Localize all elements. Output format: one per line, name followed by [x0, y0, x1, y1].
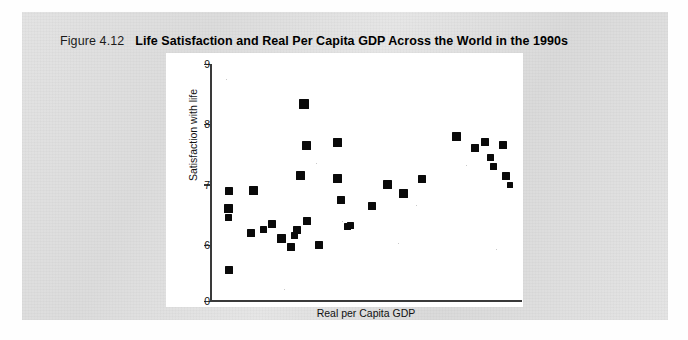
data-point [399, 189, 408, 198]
data-point [296, 171, 305, 180]
data-point [333, 174, 342, 183]
data-point [299, 99, 309, 109]
y-axis-line [210, 64, 212, 302]
data-point [502, 172, 510, 180]
data-point [268, 220, 276, 228]
figure-caption: Figure 4.12 Life Satisfaction and Real P… [60, 34, 568, 48]
figure-number: Figure 4.12 [60, 34, 124, 48]
data-point [249, 186, 258, 195]
data-point [287, 243, 295, 251]
data-point [293, 226, 301, 234]
data-point [225, 266, 233, 274]
y-tick-label: 0 [188, 296, 210, 307]
y-axis-label: Satisfaction with life [187, 70, 199, 200]
data-point [260, 226, 267, 233]
data-point [383, 180, 392, 189]
data-point [487, 154, 494, 161]
data-point [225, 187, 233, 195]
x-axis-line [210, 300, 522, 302]
data-point [418, 175, 426, 183]
data-point [499, 141, 507, 149]
scan-speckle [316, 163, 317, 164]
data-point [247, 229, 255, 237]
data-point [452, 132, 461, 141]
data-point [471, 144, 479, 152]
data-point [225, 214, 232, 221]
data-point [302, 141, 311, 150]
scan-speckle [398, 243, 399, 244]
data-point [490, 163, 497, 170]
data-point [507, 182, 513, 188]
scan-speckle [496, 249, 497, 250]
data-point [315, 241, 323, 249]
scan-speckle [466, 165, 467, 166]
data-point [347, 222, 354, 229]
data-point [481, 138, 489, 146]
data-point [277, 234, 286, 243]
scan-speckle [226, 79, 227, 80]
scan-speckle [284, 289, 285, 290]
y-tick-label: 6 [188, 240, 210, 251]
data-point [224, 204, 233, 213]
scan-speckle [342, 221, 343, 222]
data-point [303, 217, 311, 225]
scan-speckle [416, 205, 417, 206]
y-tick-label: 9 [188, 59, 210, 70]
scanned-page: Figure 4.12 Life Satisfaction and Real P… [0, 0, 688, 340]
scatter-plot: 98760 Satisfaction with life Real per Ca… [166, 53, 523, 307]
data-point [368, 202, 376, 210]
data-point [333, 138, 342, 147]
data-point [337, 196, 345, 204]
x-axis-label: Real per Capita GDP [210, 307, 522, 319]
page-title: Life Satisfaction and Real Per Capita GD… [135, 34, 568, 48]
